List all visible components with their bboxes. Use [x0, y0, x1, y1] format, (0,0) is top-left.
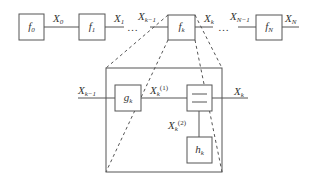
- signal-XN-1: XN−1: [230, 11, 250, 24]
- label-fk: fk: [168, 21, 195, 34]
- ellipsis-1: …: [127, 22, 138, 33]
- label-f1: f1: [79, 21, 105, 34]
- signal-Xk: Xk: [204, 13, 214, 26]
- branch1-label: Xk(1): [150, 85, 168, 98]
- signal-XN: XN: [285, 13, 296, 26]
- block-combiner: [187, 85, 212, 111]
- ellipsis-2: …: [218, 22, 229, 33]
- label-f0: f0: [19, 21, 44, 34]
- detail-input-label: Xk−1: [78, 85, 96, 98]
- signal-X1: X1: [114, 13, 124, 26]
- label-gk: gk: [115, 92, 141, 105]
- signal-Xk-1: Xk−1: [138, 11, 156, 24]
- detail-output-label: Xk: [234, 86, 244, 99]
- label-hk: hk: [187, 144, 212, 157]
- label-fN: fN: [256, 21, 282, 34]
- signal-X0: X0: [53, 13, 63, 26]
- branch2-label: Xk(2): [168, 120, 186, 133]
